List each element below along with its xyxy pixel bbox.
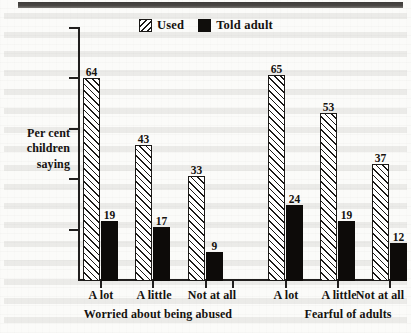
bar-value-told-5: 12 [393,231,405,243]
legend-item-used: Used [139,18,184,33]
bar-value-used-1: 43 [138,133,150,145]
x-axis-tick-group-divider [232,279,234,288]
x-label-a-little-1: A little [125,288,183,303]
bar-value-told-1: 17 [156,215,168,227]
bar-chart: Used Told adult Per cent children saying… [0,0,411,333]
bar-told-3: 24 [286,205,303,281]
bar-value-told-3: 24 [289,193,301,205]
y-axis-tick-48 [69,128,79,130]
bar-value-told-0: 19 [104,209,116,221]
y-axis-title-line-1: Per cent [4,126,70,141]
legend-label-told-adult: Told adult [216,18,273,33]
group-label-worried-about-being-abused: Worried about being abused [72,307,244,322]
bar-used-5: 37 [372,164,389,281]
bar-told-2: 9 [206,252,223,281]
bar-value-used-0: 64 [86,66,98,78]
y-axis-line [78,27,80,281]
group-label-fearful-of-adults: Fearful of adults [288,307,408,322]
bar-told-5: 12 [390,243,407,281]
bar-value-told-4: 19 [341,209,353,221]
bar-value-told-2: 9 [212,240,218,252]
legend-item-told-adult: Told adult [198,18,273,33]
bar-told-4: 19 [338,221,355,281]
bar-used-4: 53 [320,113,337,281]
x-label-not-at-all-1: Not at all [180,288,244,303]
y-axis-tick-80 [69,27,79,29]
legend-swatch-hatch-icon [139,19,152,32]
y-axis-tick-16 [69,229,79,231]
bar-told-1: 17 [153,227,170,281]
y-axis-title: Per cent children saying [4,126,70,172]
bar-value-used-5: 37 [375,152,387,164]
chart-legend: Used Told adult [139,18,273,33]
y-axis-title-line-2: children [4,141,70,156]
x-label-a-lot-2: A lot [260,288,312,303]
bar-value-used-2: 33 [191,164,203,176]
legend-swatch-solid-icon [198,19,211,32]
bar-used-2: 33 [188,176,205,281]
legend-label-used: Used [157,18,184,33]
bar-told-0: 19 [101,221,118,281]
x-label-not-at-all-2: Not at all [348,288,411,303]
y-axis-title-line-3: saying [4,157,70,172]
x-label-a-lot-1: A lot [75,288,127,303]
bar-value-used-4: 53 [323,101,335,113]
bar-used-0: 64 [83,78,100,281]
bar-used-3: 65 [268,75,285,281]
y-axis-tick-64 [69,77,79,79]
y-axis-tick-32 [69,178,79,180]
bar-value-used-3: 65 [271,63,283,75]
bar-used-1: 43 [135,145,152,281]
